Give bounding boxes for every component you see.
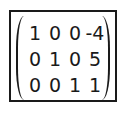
matrix-cell-r3c4: 1: [89, 76, 101, 95]
matrix-cell-r3c2: 0: [49, 76, 61, 95]
matrix-cell-r2c1: 0: [29, 50, 41, 69]
matrix-cell-r1c3: 0: [69, 24, 81, 43]
matrix-cell-r2c4: 5: [89, 50, 101, 69]
matrix-cell-r1c1: 1: [29, 24, 41, 43]
matrix-cell-r2c3: 0: [69, 50, 81, 69]
matrix-frame: 1 0 0 -4 0 1 0 5 0 0 1 1: [9, 10, 117, 102]
matrix-cell-r3c1: 0: [29, 76, 41, 95]
matrix-grid: 1 0 0 -4 0 1 0 5 0 0 1 1: [25, 20, 105, 98]
matrix-cell-r2c2: 1: [49, 50, 61, 69]
matrix-cell-r3c3: 1: [69, 76, 81, 95]
right-parenthesis: [102, 16, 110, 100]
matrix-cell-r1c2: 0: [49, 24, 61, 43]
left-parenthesis: [16, 16, 24, 100]
